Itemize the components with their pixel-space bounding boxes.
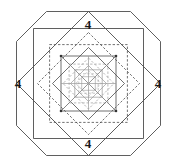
label-bottom-4: 4 [80,137,96,150]
vertex-dot-0 [60,55,63,58]
vertex-dot-2 [60,110,63,113]
label-right-4: 4 [150,77,166,90]
nested-shapes-layer [17,12,161,156]
vertex-dot-1 [115,55,118,58]
label-left-4: 4 [10,77,26,90]
vertex-dot-3 [115,110,118,113]
diagram-canvas: 4 4 4 4 [0,0,177,167]
label-top-4: 4 [80,18,96,31]
